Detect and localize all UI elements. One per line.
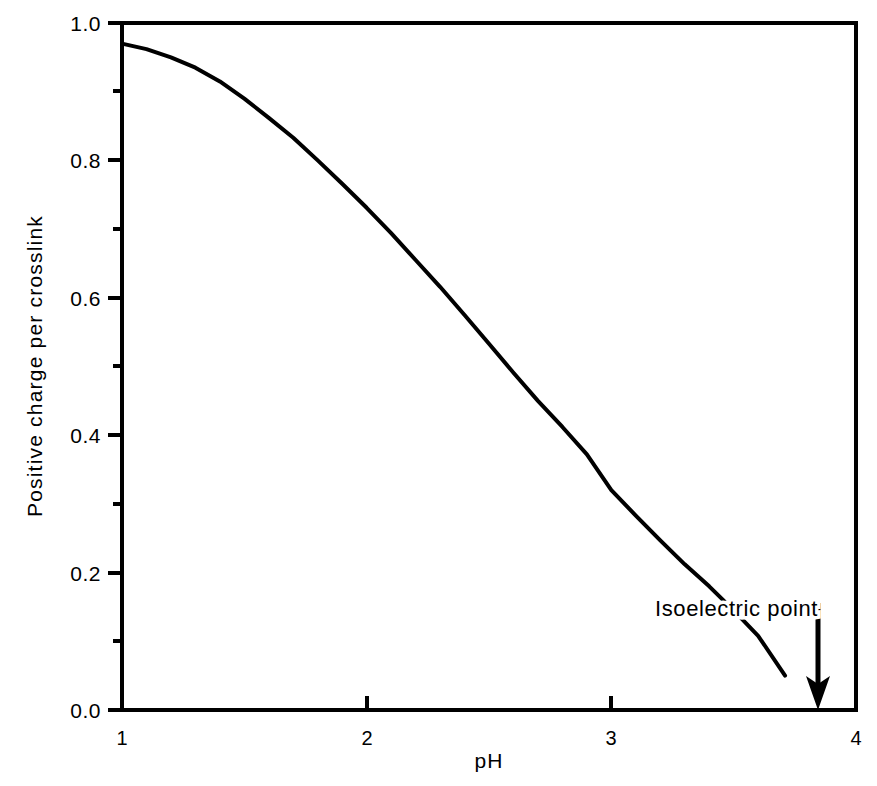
- chart-figure: 1.0 0.8 0.6 0.4 0.2 0.0 1 2 3 4 pH Posit…: [0, 0, 877, 786]
- data-series-line: [122, 44, 785, 676]
- y-tick-label-1.0: 1.0: [70, 12, 101, 35]
- x-tick-label-3: 3: [605, 727, 616, 749]
- y-tick-label-0.2: 0.2: [70, 562, 101, 585]
- x-axis-ticks: [122, 692, 856, 710]
- chart-plot-area: 1.0 0.8 0.6 0.4 0.2 0.0 1 2 3 4 pH Posit…: [0, 0, 877, 786]
- x-tick-label-2: 2: [361, 727, 372, 749]
- y-tick-label-0.0: 0.0: [70, 699, 101, 722]
- isoelectric-point-label: Isoelectric point: [655, 596, 818, 621]
- y-tick-label-0.4: 0.4: [70, 424, 101, 447]
- x-tick-label-4: 4: [850, 727, 861, 749]
- y-tick-label-0.8: 0.8: [70, 149, 101, 172]
- y-axis-title: Positive charge per crosslink: [23, 215, 46, 517]
- y-tick-label-0.6: 0.6: [70, 287, 101, 310]
- x-axis-title: pH: [474, 749, 503, 772]
- x-tick-label-1: 1: [116, 727, 127, 749]
